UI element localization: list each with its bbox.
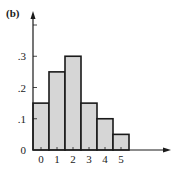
- x-tick-label: 0: [38, 153, 44, 165]
- x-tick-labels: 012345: [38, 153, 124, 165]
- x-tick-label: 4: [102, 153, 108, 165]
- bar-4: [97, 119, 113, 150]
- histogram-chart: (b) 012345 0.1.2.3: [0, 0, 173, 173]
- bar-3: [81, 103, 97, 150]
- x-tick-label: 1: [54, 153, 60, 165]
- y-tick-label: .1: [18, 113, 26, 125]
- x-tick-label: 3: [86, 153, 92, 165]
- bar-2: [65, 56, 81, 150]
- x-tick-label: 5: [118, 153, 124, 165]
- bar-0: [33, 103, 49, 150]
- bar-1: [49, 72, 65, 150]
- y-axis-arrow-icon: [31, 11, 36, 19]
- y-tick-label: .2: [18, 82, 26, 94]
- panel-label: (b): [6, 7, 20, 20]
- y-tick-label: .3: [18, 50, 27, 62]
- x-axis-arrow-icon: [163, 148, 171, 153]
- x-tick-label: 2: [70, 153, 76, 165]
- bars-group: [33, 56, 129, 150]
- y-tick-label: 0: [21, 144, 27, 156]
